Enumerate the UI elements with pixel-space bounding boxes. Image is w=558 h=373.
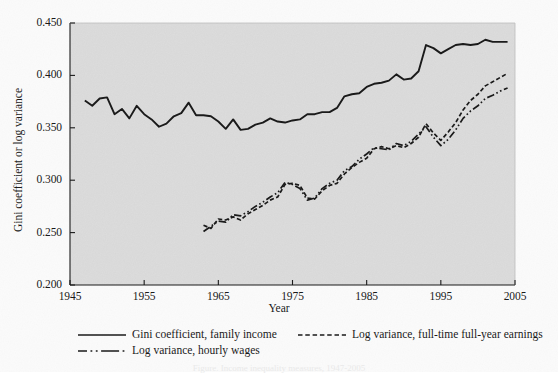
y-tick-label: 0.450	[18, 17, 62, 29]
x-tick-label: 2005	[504, 291, 527, 303]
x-tick-label: 1945	[59, 291, 82, 303]
y-tick-label: 0.300	[18, 174, 62, 186]
legend-item-hourly-wages: Log variance, hourly wages	[78, 343, 260, 357]
x-tick-label: 1995	[430, 291, 453, 303]
x-axis-label: Year	[0, 302, 558, 314]
plot-area	[70, 23, 515, 285]
legend-item-gini: Gini coefficient, family income	[78, 327, 277, 341]
x-tick-label: 1975	[281, 291, 304, 303]
y-tick-label: 0.200	[18, 279, 62, 291]
legend-key-solid-icon	[78, 329, 126, 339]
legend-label: Gini coefficient, family income	[132, 327, 277, 341]
legend-key-dashdotdot-icon	[78, 345, 126, 355]
figure-caption: Figure. Income inequality measures, 1947…	[0, 363, 558, 373]
y-tick-label: 0.250	[18, 227, 62, 239]
x-tick-label: 1955	[133, 291, 156, 303]
legend-label: Log variance, hourly wages	[132, 343, 260, 357]
y-axis-label: Gini coefficient or log variance	[12, 80, 24, 240]
legend-key-dashed-icon	[298, 329, 346, 339]
x-tick-label: 1965	[207, 291, 230, 303]
legend-item-ftfy-earnings: Log variance, full-time full-year earnin…	[298, 327, 543, 341]
y-tick-label: 0.400	[18, 69, 62, 81]
x-tick-label: 1985	[355, 291, 378, 303]
plot-texture	[70, 23, 515, 285]
legend-label: Log variance, full-time full-year earnin…	[352, 327, 543, 341]
y-tick-label: 0.350	[18, 122, 62, 134]
